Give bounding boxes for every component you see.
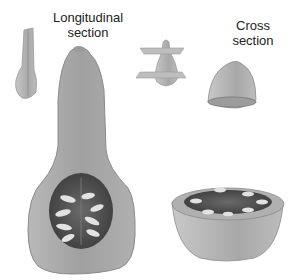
seed-cavity — [49, 173, 113, 249]
cutting-planes — [136, 40, 186, 86]
whole-fruit-small — [16, 28, 37, 98]
longitudinal-half — [28, 46, 135, 274]
cross-section-cap — [208, 61, 256, 108]
cross-section-bowl — [172, 188, 284, 261]
fruit-diagram — [0, 0, 301, 280]
